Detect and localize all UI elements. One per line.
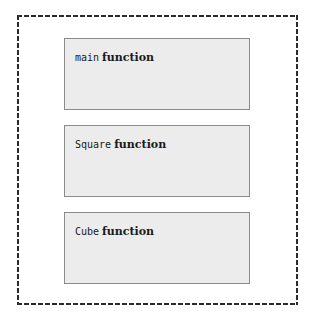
- program-boundary-frame: mainfunction Squarefunction Cubefunction: [17, 15, 298, 305]
- frame-dashed-right-edge: [296, 15, 298, 305]
- function-block-main[interactable]: mainfunction: [64, 38, 250, 110]
- function-block-label: mainfunction: [75, 49, 154, 64]
- function-kind: function: [114, 138, 166, 151]
- function-kind: function: [102, 51, 154, 64]
- function-block-cube[interactable]: Cubefunction: [64, 212, 250, 284]
- function-kind: function: [102, 225, 154, 238]
- function-block-label: Squarefunction: [75, 136, 166, 151]
- function-block-label: Cubefunction: [75, 223, 154, 238]
- function-name: Cube: [75, 226, 99, 237]
- diagram-canvas: mainfunction Squarefunction Cubefunction: [0, 0, 312, 324]
- frame-dashed-top-edge: [17, 15, 298, 17]
- function-block-square[interactable]: Squarefunction: [64, 125, 250, 197]
- function-name: main: [75, 52, 99, 63]
- function-name: Square: [75, 139, 111, 150]
- frame-dashed-bottom-edge: [17, 303, 298, 305]
- frame-dashed-left-edge: [17, 15, 19, 305]
